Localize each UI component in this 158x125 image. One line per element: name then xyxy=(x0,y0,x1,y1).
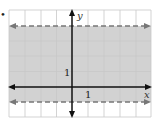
x-tick-label: 1 xyxy=(85,89,91,100)
x-axis-label: x xyxy=(144,89,150,100)
coordinate-graph: • y x xyxy=(0,0,158,125)
list-bullet: • xyxy=(0,9,6,20)
shaded-region xyxy=(9,26,151,102)
y-axis-label: y xyxy=(76,10,83,21)
y-tick-label: 1 xyxy=(64,67,70,78)
